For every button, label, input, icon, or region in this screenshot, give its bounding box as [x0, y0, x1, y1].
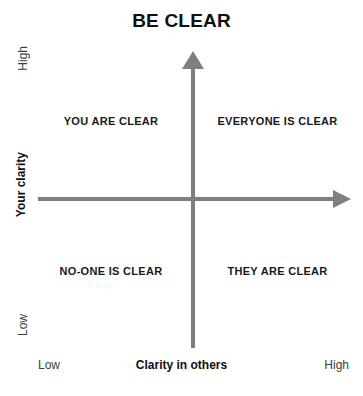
quadrant-label-bottom-right: THEY ARE CLEAR [200, 265, 355, 277]
y-axis-tick-high: High [16, 46, 30, 71]
x-axis-tick-high: High [324, 358, 349, 372]
quadrant-label-top-right: EVERYONE IS CLEAR [200, 115, 355, 127]
x-axis-line [38, 197, 342, 201]
quadrant-label-bottom-left: NO-ONE IS CLEAR [36, 265, 186, 277]
y-axis-line [191, 66, 195, 348]
quadrant-label-top-left: YOU ARE CLEAR [36, 115, 186, 127]
quadrant-chart: BE CLEAR YOU ARE CLEAR EVERYONE IS CLEAR… [0, 0, 363, 396]
y-axis-arrow-icon [182, 51, 204, 69]
y-axis-title: Your clarity [14, 152, 28, 217]
chart-title: BE CLEAR [0, 10, 363, 32]
y-axis-tick-low: Low [16, 314, 30, 336]
x-axis-title: Clarity in others [0, 358, 363, 372]
x-axis-arrow-icon [333, 190, 351, 208]
